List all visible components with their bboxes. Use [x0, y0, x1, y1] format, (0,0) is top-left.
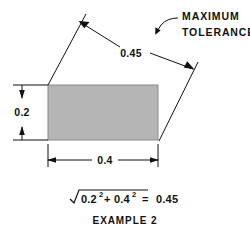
- diagonal-arrowhead-right: [184, 61, 195, 69]
- callout-arrowhead: [155, 27, 160, 35]
- diagonal-dimension-label: 0.45: [120, 47, 142, 59]
- diagonal-extension-line-right: [159, 62, 198, 141]
- technical-diagram: 0.2 0.4 0.45 MAXIMUM TOLERANCE: [0, 0, 250, 235]
- callout-label-line1: MAXIMUM: [182, 10, 240, 22]
- formula-plus-operator: +: [104, 193, 111, 205]
- diagonal-extension-line-left: [48, 14, 86, 85]
- width-dimension-label: 0.4: [97, 154, 113, 166]
- formula-term2-exponent: 2: [132, 190, 136, 199]
- formula-equals-operator: =: [142, 193, 149, 205]
- diagram-canvas: 0.2 0.4 0.45 MAXIMUM TOLERANCE: [0, 0, 250, 235]
- formula-result: 0.45: [156, 193, 178, 205]
- diagram-caption: EXAMPLE 2: [93, 215, 158, 226]
- height-arrowhead-bottom: [19, 126, 25, 135]
- callout-label-line2: TOLERANCE: [182, 26, 250, 38]
- formula-term1-base: 0.2: [81, 193, 97, 205]
- part-rectangle: [48, 85, 158, 140]
- formula-term2-base: 0.4: [114, 193, 131, 205]
- formula-term1-exponent: 2: [99, 190, 103, 199]
- height-dimension-label: 0.2: [14, 106, 30, 118]
- height-arrowhead-top: [19, 90, 25, 99]
